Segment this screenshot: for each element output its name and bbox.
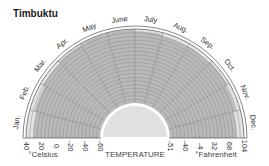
- fahrenheit-tick: 104: [240, 140, 249, 153]
- radial-temperature-chart: Jan.Feb.Mar.Apr.MayJuneJulyAug.Sep.Oct.N…: [0, 0, 269, 166]
- celsius-tick: -60: [96, 141, 105, 152]
- month-label: Nov.: [238, 84, 252, 101]
- month-label: Jan.: [11, 115, 22, 130]
- fahrenheit-tick: 32: [210, 142, 219, 150]
- month-label: May: [81, 21, 98, 35]
- celsius-tick: 20: [37, 142, 46, 150]
- fahrenheit-tick: 68: [225, 142, 234, 150]
- month-label: Feb.: [18, 84, 32, 101]
- celsius-tick: -40: [81, 141, 90, 152]
- celsius-tick: -20: [66, 141, 75, 152]
- fahrenheit-tick: -40: [181, 141, 190, 152]
- fahrenheit-tick: -4: [196, 143, 205, 150]
- month-label: Sep.: [199, 35, 217, 52]
- celsius-unit-label: °Celsius: [28, 150, 57, 159]
- fahrenheit-tick: -51: [166, 141, 175, 152]
- month-label: Dec.: [248, 114, 259, 130]
- temperature-axis-label: TEMPERATURE: [105, 150, 165, 159]
- month-label: Aug.: [172, 20, 190, 34]
- month-label: June: [111, 14, 128, 25]
- celsius-tick: 0: [52, 144, 61, 148]
- month-label: July: [143, 14, 158, 25]
- celsius-tick: 40: [22, 142, 31, 150]
- month-label: Mar.: [32, 57, 48, 74]
- fahrenheit-unit-label: °Fahrenheit: [195, 150, 237, 159]
